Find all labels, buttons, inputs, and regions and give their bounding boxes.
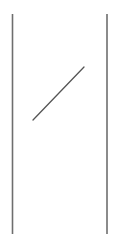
drawing-canvas — [0, 0, 114, 244]
diagonal-stroke — [33, 67, 84, 120]
line-drawing — [0, 0, 114, 244]
